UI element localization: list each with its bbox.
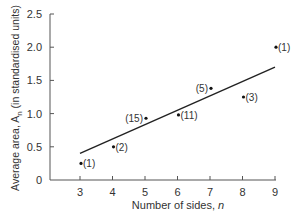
y-axis-label: Average area, An (in standardised units) [9,5,24,191]
data-point [144,117,147,120]
point-label: (15) [125,113,143,124]
y-tick-label: 1.0 [27,108,42,120]
x-tick-label: 8 [239,186,245,198]
x-tick-label: 6 [174,186,180,198]
point-label: (2) [116,142,128,153]
scatter-chart: 00.51.01.52.02.53456789 (1)(2)(15)(11)(5… [0,0,295,218]
y-tick-label: 2.0 [27,41,42,53]
y-tick-label: 2.5 [27,8,42,20]
point-label: (5) [196,83,208,94]
x-tick-label: 7 [207,186,213,198]
axes: 00.51.01.52.02.53456789 [27,8,278,198]
data-points: (1)(2)(15)(11)(5)(3)(1) [79,42,290,169]
x-tick-label: 5 [142,186,148,198]
y-tick-label: 0.5 [27,141,42,153]
y-tick-label: 0 [36,174,42,186]
y-tick-label: 1.5 [27,74,42,86]
data-point [209,87,212,90]
x-axis-label: Number of sides, n [132,199,224,211]
point-label: (1) [83,158,95,169]
x-tick-label: 9 [272,186,278,198]
trend-line [80,67,275,153]
point-label: (3) [246,92,258,103]
x-tick-label: 3 [77,186,83,198]
point-label: (1) [278,42,290,53]
point-label: (11) [181,110,198,121]
x-tick-label: 4 [109,186,115,198]
